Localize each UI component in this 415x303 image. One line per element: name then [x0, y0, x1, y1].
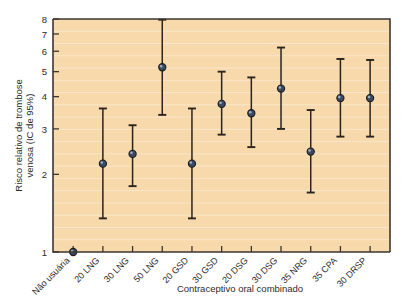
data-point-marker	[129, 150, 136, 157]
x-axis-title: Contraceptivo oral combinado	[177, 283, 303, 294]
y-tick-label: 2	[42, 169, 47, 180]
data-point-marker	[248, 110, 255, 117]
venous-thrombosis-risk-chart: 12345678 Não usuária20 LNG30 LNG50 LNG20…	[0, 0, 415, 303]
data-point-marker	[99, 160, 106, 167]
y-axis-title-line-2: venosa (IC de 95%)	[24, 94, 35, 178]
data-point-marker	[367, 94, 374, 101]
y-tick-label: 5	[42, 66, 47, 77]
data-point-marker	[307, 148, 314, 155]
y-tick-label: 1	[42, 247, 47, 258]
y-tick-label: 4	[42, 91, 47, 102]
data-point-marker	[277, 85, 284, 92]
y-tick-label: 3	[42, 124, 47, 135]
y-tick-label: 7	[42, 29, 47, 40]
data-point-marker	[188, 160, 195, 167]
data-point-marker	[218, 100, 225, 107]
y-tick-label: 8	[42, 14, 47, 25]
data-point-marker	[337, 94, 344, 101]
y-axis-title-line-1: Risco relativo de trombose	[13, 79, 24, 191]
chart-canvas: 12345678 Não usuária20 LNG30 LNG50 LNG20…	[0, 0, 415, 303]
data-point-marker	[159, 64, 166, 71]
y-tick-label: 6	[42, 46, 47, 57]
